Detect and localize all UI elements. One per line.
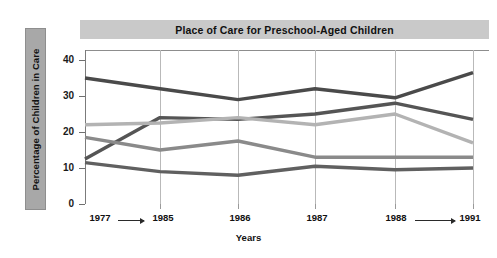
y-tick-label-30: 30 — [48, 90, 74, 101]
x-label-1986: 1986 — [229, 212, 250, 223]
arrow-1977-to-1985 — [118, 220, 144, 221]
y-tick-label-20: 20 — [48, 126, 74, 137]
y-axis-title: Percentage of Children in Care — [30, 48, 41, 190]
gridline-1987 — [315, 50, 316, 204]
chart-title: Place of Care for Preschool-Aged Childre… — [175, 24, 394, 36]
plot-area — [85, 50, 489, 204]
x-label-1991: 1991 — [459, 212, 480, 223]
y-tick-label-10: 10 — [48, 162, 74, 173]
chart-figure: Percentage of Children in Care Place of … — [0, 0, 497, 258]
y-tick-30 — [79, 96, 85, 97]
gridline-1985 — [160, 50, 161, 204]
gridline-1986 — [238, 50, 239, 204]
y-tick-20 — [79, 132, 85, 133]
x-tick-1986 — [238, 204, 239, 209]
y-tick-label-40: 40 — [48, 54, 74, 65]
y-tick-label-0: 0 — [48, 198, 74, 209]
x-label-1988: 1988 — [385, 212, 406, 223]
gridline-1991 — [473, 50, 474, 204]
x-label-1977: 1977 — [89, 212, 110, 223]
x-tick-1991 — [473, 204, 474, 209]
arrow-1988-to-1991 — [415, 220, 455, 221]
y-tick-40 — [79, 60, 85, 61]
x-label-1987: 1987 — [306, 212, 327, 223]
x-tick-1987 — [315, 204, 316, 209]
gridline-1988 — [395, 50, 396, 204]
y-tick-0 — [79, 204, 85, 205]
x-label-1985: 1985 — [152, 212, 173, 223]
x-axis-title: Years — [0, 232, 497, 243]
y-tick-10 — [79, 168, 85, 169]
x-tick-1988 — [395, 204, 396, 209]
chart-title-band: Place of Care for Preschool-Aged Childre… — [80, 20, 489, 39]
x-tick-1985 — [160, 204, 161, 209]
y-axis-title-band: Percentage of Children in Care — [25, 28, 46, 210]
